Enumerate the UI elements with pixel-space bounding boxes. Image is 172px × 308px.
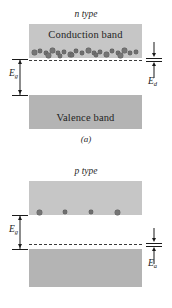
band-gap-subscript-a: g [15,72,18,79]
electron-dot [89,210,93,214]
electron-dot [50,48,55,53]
electron-dot [94,53,98,57]
band-gap-bottom-tick-a [12,95,28,96]
acceptor-energy-label-b: Ea [148,258,157,269]
acceptor-energy-subscript-b: a [154,262,157,269]
acceptor-top-tick-b [146,243,162,244]
band-gap-arrowhead-down-a [18,90,22,94]
donor-energy-label-a: Ed [148,76,157,87]
figure-panel-b: p type Eg Ea (b) [0,154,172,308]
electron-dot [80,51,84,55]
electron-dot [74,49,78,53]
electron-dot [38,49,42,53]
valence-band-a: Valence band [29,95,142,129]
band-gap-arrowhead-down-b [18,244,22,248]
electron-dot [63,210,67,214]
donor-energy-arrow-a [146,42,162,68]
electron-dot [115,210,120,215]
electron-dot [118,53,123,58]
donor-arrowhead-down-a [152,53,156,57]
valence-band-b [29,249,142,287]
electron-dot [62,50,66,54]
acceptor-level-line-b [29,244,142,245]
donor-level-line-a [29,60,142,61]
electron-dot [46,53,51,58]
band-gap-subscript-b: g [15,228,18,235]
electron-dot [70,53,74,57]
electron-dot [98,50,102,54]
acceptor-arrowhead-down-b [152,238,156,242]
electron-dot [58,54,62,58]
electron-dot [32,50,37,55]
panel-a-caption: (a) [0,134,172,144]
electron-dot [134,50,138,54]
electron-dot [110,49,114,53]
electron-dot [104,52,109,57]
donor-energy-subscript-a: d [154,80,157,87]
electron-dot [122,48,127,53]
electron-dot [128,51,132,55]
figure-panel-a: n type Conduction band Valence band Eg E… [0,0,172,154]
band-gap-bottom-tick-b [12,249,28,250]
donor-top-tick-a [146,58,162,59]
valence-band-label-a: Valence band [29,112,142,123]
band-gap-label-a: Eg [9,68,18,79]
electron-dot [86,48,91,53]
band-gap-label-b: Eg [9,224,18,235]
electron-dot [37,210,42,215]
acceptor-energy-arrow-b [146,228,162,254]
